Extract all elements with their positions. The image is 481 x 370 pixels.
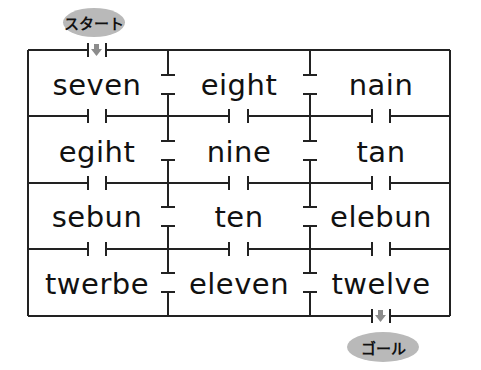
cell-word: seven: [53, 68, 142, 102]
cell-word: sebun: [52, 200, 143, 234]
goal-arrow-icon: [375, 310, 386, 322]
cell-word: elebun: [330, 200, 432, 234]
cell-word: eight: [201, 68, 278, 102]
start-arrow-icon: [91, 44, 102, 56]
cell-word: eleven: [189, 267, 289, 301]
cell-word: tan: [356, 135, 405, 169]
cell-word: ten: [214, 200, 263, 234]
cell-word: twerbe: [45, 267, 149, 301]
cell-word: nine: [207, 135, 272, 169]
cell-word: egiht: [59, 135, 136, 169]
start-label: スタート: [63, 8, 125, 37]
cell-word: nain: [349, 68, 414, 102]
maze-walls: [0, 0, 481, 370]
goal-label: ゴール: [347, 332, 419, 362]
cell-word: twelve: [332, 267, 431, 301]
